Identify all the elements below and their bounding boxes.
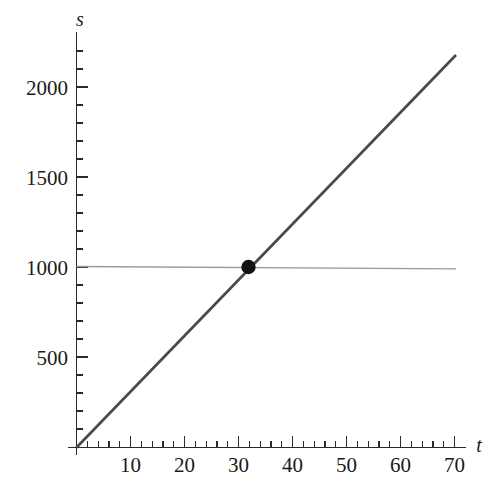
- series-rising-line: [77, 55, 457, 448]
- y-axis-minor-ticks: [77, 51, 84, 429]
- y-tick-label-2000: 2000: [26, 76, 68, 100]
- y-tick-label-1500: 1500: [26, 166, 68, 190]
- x-axis-title: t: [476, 434, 482, 456]
- x-axis-major-ticks: [131, 436, 455, 448]
- x-tick-label-50: 50: [336, 453, 357, 477]
- x-axis-minor-ticks: [87, 441, 443, 448]
- x-tick-label-70: 70: [444, 453, 465, 477]
- y-axis-title: s: [76, 8, 84, 30]
- x-tick-label-30: 30: [228, 453, 249, 477]
- x-tick-label-40: 40: [282, 453, 303, 477]
- series-constant-line: [77, 267, 457, 269]
- y-tick-label-500: 500: [37, 346, 69, 370]
- line-chart-plot: 2000 1500 1000 500 10 20 30 40 50 60 70 …: [0, 0, 497, 491]
- y-axis-major-ticks: [77, 87, 89, 357]
- x-tick-label-60: 60: [390, 453, 411, 477]
- intersection-point-marker: [241, 260, 255, 274]
- x-tick-label-20: 20: [174, 453, 195, 477]
- x-tick-label-10: 10: [120, 453, 141, 477]
- chart-figure: 2000 1500 1000 500 10 20 30 40 50 60 70 …: [0, 0, 497, 491]
- y-tick-label-1000: 1000: [26, 256, 68, 280]
